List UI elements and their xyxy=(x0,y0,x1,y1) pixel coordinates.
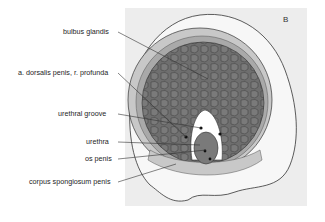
label-urethral-groove: urethral groove xyxy=(58,109,106,118)
label-urethra: urethra xyxy=(86,137,109,146)
panel-letter: B xyxy=(283,15,288,24)
label-a-dorsalis: a. dorsalis penis, r. profunda xyxy=(18,68,108,77)
label-bulbus-glandis: bulbus glandis xyxy=(63,27,109,36)
os-penis xyxy=(194,132,218,164)
cross-section-illustration xyxy=(0,0,325,222)
label-corpus-spongiosum: corpus spongiosum penis xyxy=(29,177,111,186)
label-os-penis: os penis xyxy=(85,154,112,163)
